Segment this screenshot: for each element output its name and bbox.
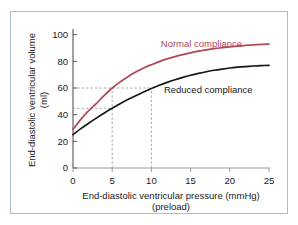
- x-axis-title-group: End-diastolic ventricular pressure (mmHg…: [82, 190, 259, 212]
- y-axis-title-group: End-diastolic ventricular volume (ml): [26, 33, 49, 167]
- y-tick-label-20: 20: [57, 136, 68, 147]
- compliance-curve-chart: 0 20 40 60 80 100 0 5 10 15 20 25: [11, 12, 287, 213]
- y-tick-label-80: 80: [57, 56, 68, 67]
- y-tick-label-60: 60: [57, 82, 68, 93]
- x-axis-tick-labels: 0 5 10 15 20 25: [70, 175, 274, 186]
- x-tick-label-10: 10: [146, 175, 157, 186]
- y-tick-label-100: 100: [52, 29, 68, 40]
- guide-lines-group: [73, 88, 151, 168]
- x-axis-title-line2: (preload): [152, 201, 190, 212]
- series-label-reduced-compliance: Reduced compliance: [164, 84, 253, 95]
- y-axis-title-line2: (ml): [38, 92, 49, 108]
- figure-frame: 0 20 40 60 80 100 0 5 10 15 20 25: [10, 11, 288, 214]
- curve-reduced-compliance: [73, 65, 269, 134]
- y-tick-label-40: 40: [57, 109, 68, 120]
- x-tick-label-20: 20: [225, 175, 236, 186]
- x-tick-label-0: 0: [70, 175, 75, 186]
- y-axis-tick-labels: 0 20 40 60 80 100: [52, 29, 68, 173]
- x-axis-ticks: [73, 168, 269, 172]
- axes-group: [73, 29, 270, 168]
- x-axis-title-line1: End-diastolic ventricular pressure (mmHg…: [82, 190, 259, 201]
- figure-root: 0 20 40 60 80 100 0 5 10 15 20 25: [0, 0, 298, 225]
- x-tick-label-15: 15: [185, 175, 196, 186]
- y-axis-ticks: [73, 35, 77, 168]
- y-axis-title-line1: End-diastolic ventricular volume: [26, 33, 37, 167]
- series-label-normal-compliance: Normal compliance: [161, 38, 242, 49]
- x-tick-label-5: 5: [110, 175, 115, 186]
- y-tick-label-0: 0: [63, 162, 68, 173]
- x-tick-label-25: 25: [264, 175, 275, 186]
